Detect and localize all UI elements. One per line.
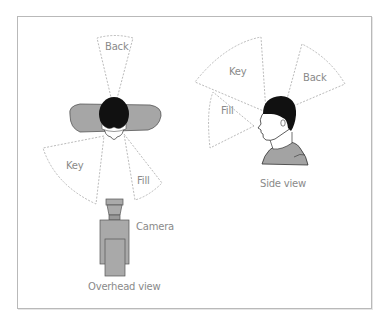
overhead-fill-label: Fill <box>137 175 150 186</box>
side-back-label: Back <box>303 72 326 83</box>
fill-light-cone <box>124 134 162 200</box>
overhead-view-caption: Overhead view <box>88 281 160 292</box>
camera-label: Camera <box>136 221 174 232</box>
lighting-diagram <box>0 0 386 322</box>
side-fill-label: Fill <box>221 105 234 116</box>
overhead-key-label: Key <box>66 160 84 171</box>
overhead-back-label: Back <box>105 41 128 52</box>
side-view-caption: Side view <box>260 178 306 189</box>
side-key-label: Key <box>229 66 247 77</box>
camera-icon <box>100 199 129 276</box>
